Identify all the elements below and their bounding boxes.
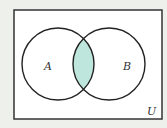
set-a-label: A bbox=[43, 60, 52, 73]
universe-label: U bbox=[147, 105, 157, 118]
venn-diagram: A B U bbox=[0, 0, 167, 128]
set-b-label: B bbox=[122, 60, 131, 73]
